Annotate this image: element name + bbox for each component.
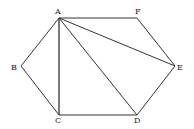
vertex-label-c: C (55, 117, 61, 125)
vertex-label-a: A (55, 8, 61, 16)
vertex-label-d: D (134, 117, 140, 125)
hexagon-diagram: A F E D C B (0, 0, 194, 129)
vertex-label-f: F (135, 8, 141, 16)
diagonal-ae (59, 18, 175, 66)
diagonal-ad (59, 18, 137, 115)
vertex-label-e: E (177, 64, 183, 72)
vertex-label-b: B (11, 64, 17, 72)
diagram-canvas (0, 0, 194, 129)
